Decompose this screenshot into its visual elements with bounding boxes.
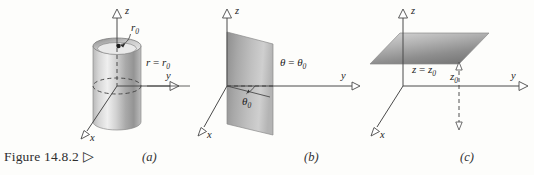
- radius-callout-label: r0: [131, 21, 139, 36]
- axis-label-z: z: [234, 5, 239, 16]
- axis-y: [403, 82, 528, 91]
- axis-label-x: x: [89, 132, 95, 143]
- axis-label-y: y: [340, 70, 346, 81]
- axis-x: [371, 86, 403, 136]
- panel-label-c: (c): [460, 150, 474, 165]
- height-dimension: [456, 62, 462, 130]
- axis-label-y: y: [165, 70, 171, 81]
- axis-label-x: x: [206, 129, 212, 140]
- surface-equation-c: z = z0: [411, 63, 436, 78]
- panel-label-a: (a): [142, 150, 157, 165]
- panel-b-diagram: z y x θ0 θ = θ0: [185, 0, 360, 150]
- axis-x: [198, 86, 227, 136]
- panel-a-cylinder: z y x r0: [0, 0, 190, 150]
- half-plane-surface: [227, 32, 273, 135]
- figure-caption: Figure 14.8.2 ▷: [4, 148, 94, 165]
- figure-caption-text: Figure 14.8.2: [4, 149, 79, 164]
- axis-label-x: x: [379, 129, 385, 140]
- height-callout-label: z0: [449, 70, 458, 85]
- figure-caption-marker: ▷: [83, 149, 94, 164]
- axis-label-z: z: [410, 5, 415, 16]
- surface-equation-a: r = r0: [146, 56, 170, 71]
- axis-label-z: z: [124, 5, 129, 16]
- panel-label-b: (b): [304, 150, 319, 165]
- surface-equation-b: θ = θ0: [280, 56, 307, 71]
- panel-b-half-plane: z y x θ0 θ = θ0: [185, 0, 360, 150]
- horizontal-plane-surface: [370, 33, 489, 64]
- panel-c-diagram: z y x z0 z = z0: [355, 0, 534, 150]
- figure-page: z y x r0: [0, 0, 534, 175]
- panel-a-diagram: z y x r0: [0, 0, 190, 150]
- panel-c-horizontal-plane: z y x z0 z = z0: [355, 0, 534, 150]
- axis-label-y: y: [510, 70, 516, 81]
